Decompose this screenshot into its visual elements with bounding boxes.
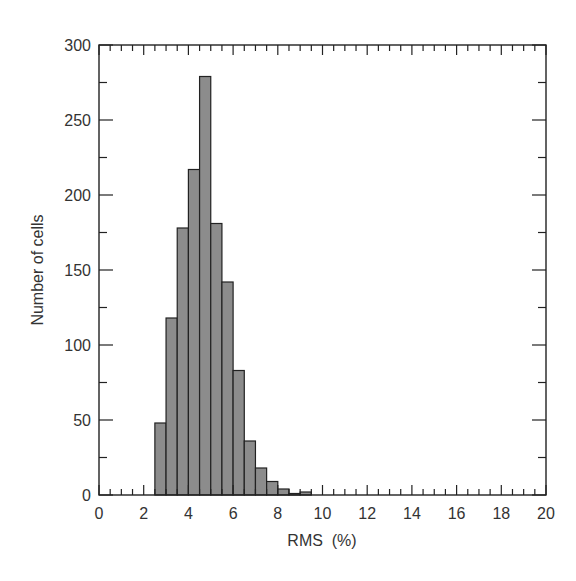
- histogram-bar: [177, 228, 188, 495]
- x-axis-title: RMS (%): [287, 532, 356, 549]
- histogram-bar: [244, 441, 255, 495]
- histogram-chart: 02468101214161820 050100150200250300 RMS…: [0, 0, 576, 581]
- y-tick-label: 150: [64, 262, 91, 279]
- x-tick-label: 20: [537, 505, 555, 522]
- y-tick-label: 200: [64, 187, 91, 204]
- y-tick-label: 100: [64, 337, 91, 354]
- x-tick-label: 12: [358, 505, 376, 522]
- histogram-bar: [155, 423, 166, 495]
- histogram-bar: [222, 282, 233, 495]
- y-axis-title: Number of cells: [29, 214, 46, 325]
- x-tick-label: 0: [95, 505, 104, 522]
- x-tick-label: 14: [403, 505, 421, 522]
- histogram-bar: [267, 482, 278, 496]
- histogram-bars: [155, 77, 311, 496]
- histogram-bar: [200, 77, 211, 496]
- x-tick-label: 16: [448, 505, 466, 522]
- x-tick-labels: 02468101214161820: [95, 505, 555, 522]
- x-tick-label: 10: [314, 505, 332, 522]
- histogram-bar: [278, 489, 289, 495]
- x-tick-label: 2: [139, 505, 148, 522]
- histogram-bar: [211, 224, 222, 496]
- y-tick-labels: 050100150200250300: [64, 37, 91, 504]
- y-tick-label: 300: [64, 37, 91, 54]
- histogram-bar: [255, 468, 266, 495]
- x-tick-label: 18: [492, 505, 510, 522]
- y-tick-label: 50: [73, 412, 91, 429]
- x-tick-label: 8: [273, 505, 282, 522]
- y-tick-label: 0: [82, 487, 91, 504]
- histogram-bar: [188, 170, 199, 496]
- histogram-bar: [166, 318, 177, 495]
- y-tick-label: 250: [64, 112, 91, 129]
- histogram-bar: [233, 371, 244, 496]
- x-tick-label: 6: [229, 505, 238, 522]
- x-tick-label: 4: [184, 505, 193, 522]
